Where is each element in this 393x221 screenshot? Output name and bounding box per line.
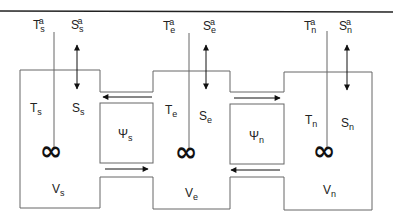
volume-e: Ve bbox=[185, 187, 198, 199]
temperature-e: Te bbox=[165, 104, 177, 116]
temperature-n: Tn bbox=[305, 114, 317, 126]
flow-label-psi-n: Ψn bbox=[249, 130, 264, 142]
volume-n: Vn bbox=[323, 184, 336, 196]
atm-temperature-e: Tea bbox=[163, 20, 174, 32]
salinity-s: Ss bbox=[72, 102, 85, 114]
flow-label-psi-s: Ψs bbox=[118, 128, 133, 140]
temperature-s: Ts bbox=[30, 102, 42, 114]
volume-s: Vs bbox=[52, 183, 65, 195]
top-rule bbox=[0, 11, 393, 12]
atm-salinity-s: Ssa bbox=[71, 19, 83, 31]
atm-temperature-n: Tna bbox=[304, 20, 315, 32]
mixer-icon-n: ∞ bbox=[313, 137, 336, 164]
salinity-e: Se bbox=[199, 110, 212, 122]
salinity-n: Sn bbox=[341, 117, 354, 129]
atm-salinity-e: Sea bbox=[203, 20, 215, 32]
atm-salinity-n: Sna bbox=[339, 20, 351, 32]
mixer-icon-s: ∞ bbox=[40, 137, 63, 164]
mixer-icon-e: ∞ bbox=[175, 138, 198, 165]
atm-temperature-s: Tsa bbox=[33, 19, 44, 31]
